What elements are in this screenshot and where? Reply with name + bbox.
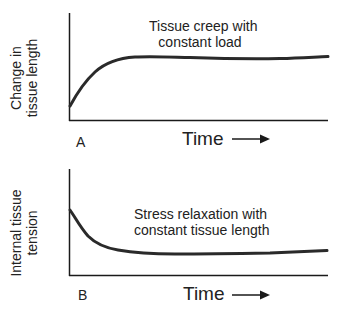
y-axis-label-line-1: Change in [8, 28, 24, 128]
x-axis-label: Time [183, 283, 225, 305]
y-axis-label: Internal tissue tension [8, 183, 40, 283]
curve-annotation: Stress relaxation with constant tissue l… [134, 206, 262, 238]
y-axis-label: Change in tissue length [8, 28, 40, 128]
annotation-line-1: Tissue creep with [149, 18, 251, 34]
panel-a-creep: Change in tissue length Tissue creep wit… [0, 0, 343, 155]
curve-annotation: Tissue creep with constant load [149, 18, 251, 50]
y-axis-label-line-1: Internal tissue [8, 183, 24, 283]
creep-curve [70, 57, 328, 107]
annotation-line-1: Stress relaxation with [134, 206, 262, 222]
annotation-line-2: constant tissue length [134, 222, 262, 238]
annotation-line-2: constant load [149, 34, 251, 50]
y-axis-label-line-2: tension [24, 183, 40, 283]
panel-letter: A [76, 134, 85, 150]
x-axis-label: Time [182, 128, 224, 150]
y-axis-label-line-2: tissue length [24, 28, 40, 128]
panel-b-stress-relaxation: Internal tissue tension Stress relaxatio… [0, 155, 343, 310]
panel-letter: B [78, 287, 87, 303]
time-arrow-icon [232, 135, 270, 144]
time-arrow-icon [232, 291, 270, 300]
